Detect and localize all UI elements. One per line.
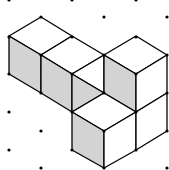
grid-dot — [39, 15, 42, 18]
grid-dot — [134, 35, 137, 38]
grid-dot — [102, 53, 105, 56]
grid-dot — [39, 53, 42, 56]
grid-dot — [102, 91, 105, 94]
grid-dot — [165, 53, 168, 56]
grid-dot — [102, 166, 105, 169]
grid-dot — [7, 110, 10, 113]
grid-dot — [165, 166, 168, 169]
grid-dot — [39, 129, 42, 132]
grid-dot — [7, 72, 10, 75]
grid-dot — [70, 110, 73, 113]
grid-dot — [70, 35, 73, 38]
grid-dot — [70, 148, 73, 151]
grid-dot — [39, 91, 42, 94]
grid-dot — [165, 129, 168, 132]
isometric-cube-figure — [0, 0, 169, 170]
grid-dot — [102, 129, 105, 132]
grid-dot — [70, 72, 73, 75]
grid-dot — [39, 166, 42, 169]
grid-dot — [134, 72, 137, 75]
grid-dot — [102, 15, 105, 18]
grid-dot — [165, 15, 168, 18]
grid-dot — [134, 110, 137, 113]
grid-dot — [7, 148, 10, 151]
grid-dot — [134, 148, 137, 151]
grid-dot — [165, 91, 168, 94]
grid-dot — [7, 35, 10, 38]
